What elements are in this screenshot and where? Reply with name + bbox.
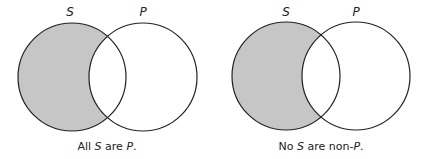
label-s: S <box>282 5 290 19</box>
venn-diagram-no-s-are-non-p: S P No S are non-P. <box>232 5 410 153</box>
caption: No S are non-P. <box>278 140 363 153</box>
venn-diagram-all-s-are-p: S P All S are P. <box>18 5 197 153</box>
venn-diagrams: S P All S are P. S P No S are non-P. <box>0 0 424 159</box>
label-p: P <box>352 5 360 19</box>
label-p: P <box>139 5 147 19</box>
caption: All S are P. <box>77 140 136 153</box>
label-s: S <box>66 5 74 19</box>
